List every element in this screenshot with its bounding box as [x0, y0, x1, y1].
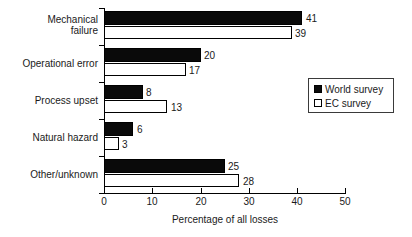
- legend-item-ec-survey: EC survey: [314, 96, 393, 110]
- x-axis-line: [104, 193, 346, 194]
- bar-value-world-mechanical-failure: 41: [306, 13, 317, 24]
- bar-world-mechanical-failure: [104, 11, 302, 25]
- category-label-operational-error: Operational error: [2, 58, 98, 69]
- category-label-line: Other/unknown: [2, 169, 98, 180]
- legend-item-world-survey: World survey: [314, 82, 393, 96]
- category-label-line: Natural hazard: [2, 132, 98, 143]
- bar-ec-mechanical-failure: [104, 26, 292, 39]
- x-axis-tick: [249, 188, 250, 194]
- x-axis-tick-label-50: 50: [330, 196, 360, 208]
- bar-ec-other-unknown: [104, 174, 239, 187]
- y-axis-tick: [99, 8, 105, 9]
- x-axis-tick-label-30: 30: [234, 196, 264, 208]
- bar-world-process-upset: [104, 85, 143, 99]
- x-axis-tick-label-10: 10: [137, 196, 167, 208]
- category-label-process-upset: Process upset: [2, 95, 98, 106]
- x-axis-tick-label-40: 40: [282, 196, 312, 208]
- category-label-line: Process upset: [2, 95, 98, 106]
- category-label-line: failure: [2, 25, 98, 36]
- x-axis-tick: [152, 188, 153, 194]
- bar-value-world-other-unknown: 25: [228, 161, 239, 172]
- chart-figure: Mechanical failure Operational error Pro…: [0, 0, 412, 237]
- bar-ec-process-upset: [104, 100, 167, 113]
- bar-value-ec-other-unknown: 28: [243, 176, 254, 187]
- y-axis-tick: [99, 156, 105, 157]
- category-label-other-unknown: Other/unknown: [2, 169, 98, 180]
- category-label-natural-hazard: Natural hazard: [2, 132, 98, 143]
- x-axis-tick: [345, 188, 346, 194]
- legend-label-ec-survey: EC survey: [325, 98, 371, 109]
- bar-value-ec-mechanical-failure: 39: [295, 28, 306, 39]
- x-axis-tick-label-20: 20: [186, 196, 216, 208]
- bar-world-other-unknown: [104, 159, 225, 173]
- chart-legend: World survey EC survey: [308, 78, 394, 113]
- plot-area: Mechanical failure Operational error Pro…: [0, 0, 412, 237]
- y-axis-tick: [99, 119, 105, 120]
- bar-world-natural-hazard: [104, 122, 133, 136]
- x-axis-title: Percentage of all losses: [104, 214, 346, 225]
- bar-ec-operational-error: [104, 63, 186, 76]
- hollow-square-icon: [314, 99, 322, 107]
- bar-value-ec-natural-hazard: 3: [122, 139, 128, 150]
- bar-world-operational-error: [104, 48, 201, 62]
- category-label-line: Mechanical: [2, 14, 98, 25]
- x-axis-tick: [104, 188, 105, 194]
- x-axis-tick: [297, 188, 298, 194]
- category-label-mechanical-failure: Mechanical failure: [2, 14, 98, 36]
- y-axis-tick: [99, 45, 105, 46]
- bar-value-world-natural-hazard: 6: [137, 124, 143, 135]
- x-axis-tick: [201, 188, 202, 194]
- bar-value-ec-process-upset: 13: [171, 102, 182, 113]
- x-axis-tick-label-0: 0: [89, 196, 119, 208]
- bar-value-ec-operational-error: 17: [189, 65, 200, 76]
- y-axis-tick: [99, 82, 105, 83]
- legend-label-world-survey: World survey: [325, 84, 383, 95]
- bar-ec-natural-hazard: [104, 137, 119, 150]
- filled-square-icon: [314, 85, 322, 93]
- bar-value-world-process-upset: 8: [146, 87, 152, 98]
- category-label-line: Operational error: [2, 58, 98, 69]
- bar-value-world-operational-error: 20: [204, 50, 215, 61]
